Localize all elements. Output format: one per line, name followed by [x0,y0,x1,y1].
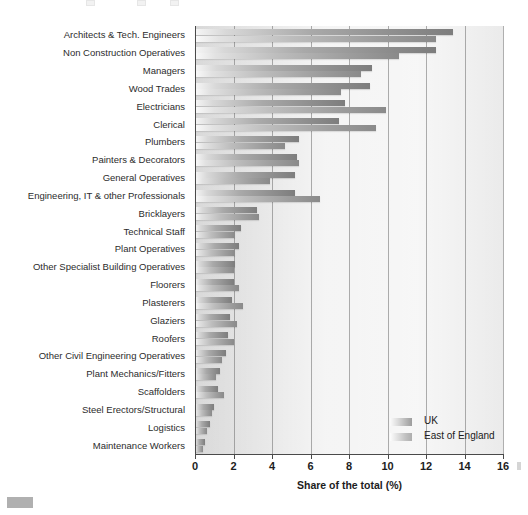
category-label: Engineering, IT & other Professionals [28,190,185,201]
category-label: Managers [143,65,185,76]
category-label: Plumbers [145,136,185,147]
x-tick-8 [349,454,350,459]
bar-east-of-england [195,143,285,149]
category-axis-labels: Architects & Tech. EngineersNon Construc… [0,26,190,454]
x-tick-label: 12 [420,460,432,472]
category-label: Maintenance Workers [93,440,185,451]
gridline-8 [349,26,350,454]
x-tick-4 [272,454,273,459]
category-label: Clerical [153,119,185,130]
bar-uk [195,65,372,71]
category-label: Steel Erectors/Structural [82,404,185,415]
category-label: Technical Staff [123,226,185,237]
bar-uk [195,421,210,427]
bar-uk [195,297,232,303]
scan-artifact [86,0,95,6]
bar-east-of-england [195,214,259,220]
gridline-14 [465,26,466,454]
bar-chart: Architects & Tech. EngineersNon Construc… [0,0,528,515]
gridline-10 [388,26,389,454]
x-tick-label: 6 [307,460,313,472]
x-tick-label: 10 [381,460,393,472]
bar-east-of-england [195,428,207,434]
bar-uk [195,100,345,106]
bar-uk [195,243,239,249]
bar-east-of-england [195,232,235,238]
legend-swatch-uk-icon [390,418,412,426]
x-tick-label: 16 [497,460,509,472]
bar-uk [195,279,234,285]
category-label: Glaziers [150,315,185,326]
x-tick-10 [388,454,389,459]
bar-east-of-england [195,125,376,131]
x-tick-label: 14 [458,460,470,472]
bar-east-of-england [195,374,216,380]
legend-label-east-of-england: East of England [424,430,495,441]
page-edge-mark [517,462,521,470]
bar-uk [195,404,214,410]
bar-east-of-england [195,107,386,113]
bar-east-of-england [195,178,270,184]
bar-east-of-england [195,267,234,273]
x-tick-label: 4 [269,460,275,472]
y-axis-line [195,26,196,455]
bar-uk [195,118,339,124]
category-label: Painters & Decorators [92,154,185,165]
bar-uk [195,207,257,213]
bar-east-of-england [195,303,243,309]
category-label: Bricklayers [139,208,185,219]
category-label: Other Civil Engineering Operatives [39,350,185,361]
bar-east-of-england [195,410,212,416]
x-tick-16 [503,454,504,459]
x-tick-label: 2 [230,460,236,472]
bar-uk [195,439,205,445]
bar-east-of-england [195,53,399,59]
x-tick-label: 8 [346,460,352,472]
bar-east-of-england [195,285,239,291]
category-label: Floorers [150,279,185,290]
bar-east-of-england [195,71,361,77]
gridline-12 [426,26,427,454]
x-tick-12 [426,454,427,459]
plot-area [195,26,503,454]
bar-east-of-england [195,392,224,398]
bar-uk [195,154,297,160]
x-tick-6 [311,454,312,459]
bar-uk [195,225,241,231]
x-tick-0 [195,454,196,459]
bar-uk [195,350,226,356]
x-tick-label: 0 [192,460,198,472]
category-label: Non Construction Operatives [63,47,185,58]
bar-uk [195,190,295,196]
bar-east-of-england [195,160,299,166]
x-tick-14 [465,454,466,459]
legend-swatch-east-of-england-icon [390,433,412,441]
bar-uk [195,29,453,35]
bar-uk [195,368,220,374]
category-label: Plant Mechanics/Fitters [86,368,185,379]
category-label: Plasterers [142,297,185,308]
category-label: Wood Trades [129,83,185,94]
page-corner-block [7,497,33,508]
bar-uk [195,172,295,178]
category-label: General Operatives [103,172,185,183]
gridline-16 [503,26,504,454]
bar-uk [195,386,218,392]
bar-east-of-england [195,357,222,363]
scan-artifact [137,0,146,6]
bar-east-of-england [195,321,237,327]
bar-uk [195,47,436,53]
bar-uk [195,261,235,267]
category-label: Other Specialist Building Operatives [33,261,185,272]
bar-east-of-england [195,446,203,452]
bar-uk [195,136,299,142]
category-label: Plant Operatives [115,243,185,254]
scan-artifact [170,0,179,6]
category-label: Electricians [136,101,185,112]
bar-east-of-england [195,250,235,256]
category-label: Scaffolders [138,386,185,397]
bar-east-of-england [195,339,234,345]
bar-uk [195,314,230,320]
bar-east-of-england [195,36,436,42]
category-label: Architects & Tech. Engineers [64,29,185,40]
